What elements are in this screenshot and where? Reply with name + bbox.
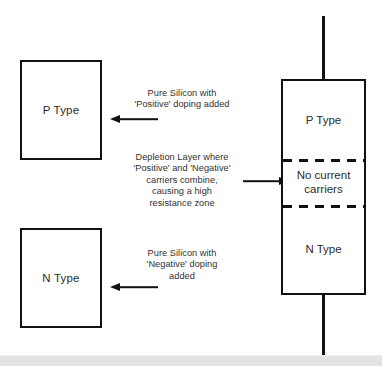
annotation-p-doping: Pure Silicon with 'Positive' doping adde… (112, 88, 252, 111)
arrow-left-p-doping (110, 113, 158, 125)
p-type-source-label: P Type (43, 104, 80, 116)
depletion-boundary-bottom (283, 205, 364, 208)
annotation-n-doping: Pure Silicon with 'Negative' doping adde… (112, 248, 252, 282)
diagram-canvas: P Type N Type Pure Silicon with 'Positiv… (0, 0, 382, 366)
page-edge-strip (0, 355, 382, 366)
diode-body: P Type No current carriers N Type (281, 79, 366, 295)
arrow-shaft (119, 286, 158, 288)
annotation-depletion-layer: Depletion Layer where 'Positive' and 'Ne… (112, 152, 252, 209)
arrow-shaft (119, 118, 158, 120)
arrow-shaft (243, 180, 280, 182)
diode-depletion-label: No current carriers (297, 168, 351, 196)
depletion-boundary-top (283, 159, 364, 162)
arrow-left-n-doping (110, 281, 158, 293)
diode-n-type-label: N Type (305, 242, 341, 256)
anode-lead-wire (322, 16, 325, 80)
diode-p-type-label: P Type (306, 113, 341, 127)
diode-region-n-type: N Type (283, 205, 364, 292)
cathode-lead-wire (322, 294, 325, 356)
diode-region-depletion: No current carriers (283, 159, 364, 205)
n-type-source-box: N Type (20, 228, 102, 328)
diode-region-p-type: P Type (283, 81, 364, 159)
p-type-source-box: P Type (20, 60, 102, 160)
n-type-source-label: N Type (42, 272, 79, 284)
